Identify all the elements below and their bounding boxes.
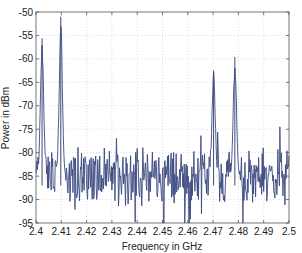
x-tick-label: 2.45 — [153, 226, 173, 237]
x-tick-label: 2.46 — [178, 226, 198, 237]
x-tick-label: 2.41 — [52, 226, 72, 237]
y-tick-label: -85 — [19, 171, 34, 182]
y-axis-title: Power in dBm — [0, 87, 11, 149]
x-tick-label: 2.47 — [203, 226, 223, 237]
y-tick-label: -70 — [19, 100, 34, 111]
x-tick-label: 2.43 — [102, 226, 122, 237]
y-tick-label: -75 — [19, 124, 34, 135]
y-tick-label: -65 — [19, 77, 34, 88]
x-tick-label: 2.49 — [254, 226, 274, 237]
x-tick-label: 2.5 — [282, 226, 296, 237]
y-tick-label: -55 — [19, 30, 34, 41]
spectrum-chart: 2.42.412.422.432.442.452.462.472.482.492… — [0, 0, 302, 253]
y-tick-label: -60 — [19, 53, 34, 64]
y-tick-label: -80 — [19, 147, 34, 158]
y-tick-label: -95 — [19, 218, 34, 229]
y-tick-label: -50 — [19, 7, 34, 18]
y-tick-label: -90 — [19, 194, 34, 205]
x-tick-label: 2.48 — [229, 226, 249, 237]
x-tick-label: 2.44 — [127, 226, 147, 237]
x-axis-title: Frequency in GHz — [122, 241, 203, 252]
x-tick-label: 2.42 — [77, 226, 97, 237]
